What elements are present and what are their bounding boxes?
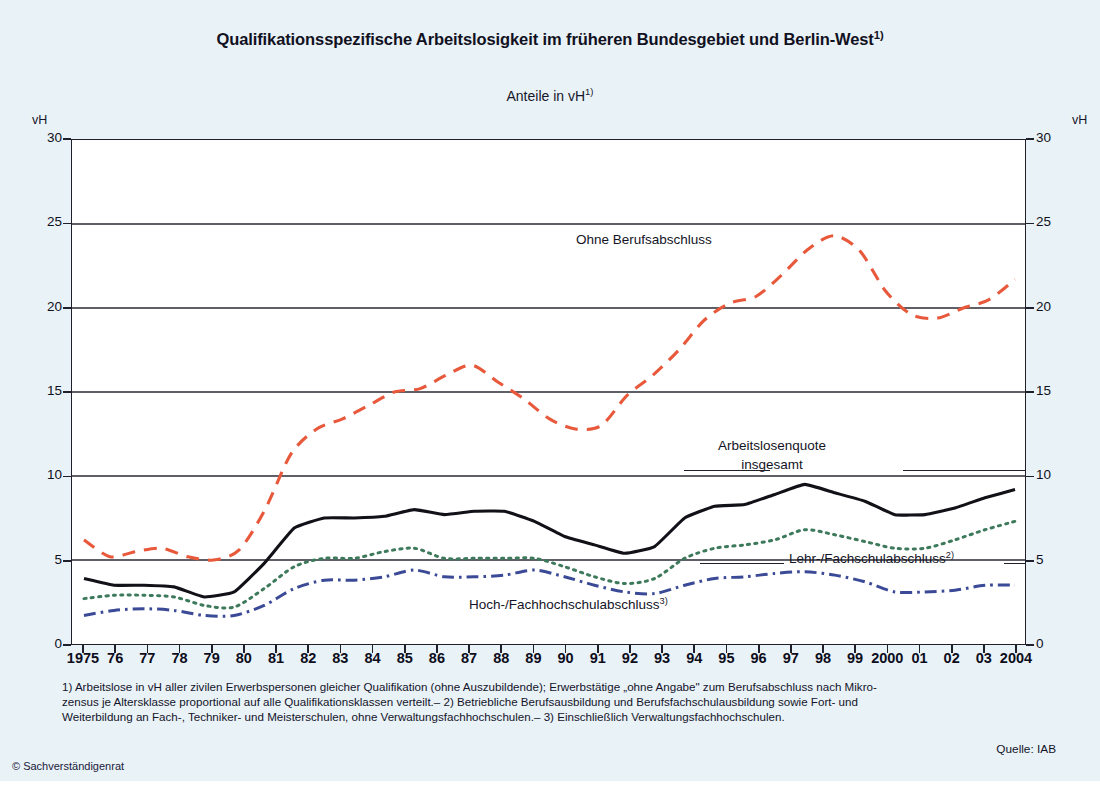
series-label-hoch-fachhochschulabschluss: Hoch-/Fachhochschulabschluss3) <box>469 597 668 612</box>
series-line <box>84 484 1015 597</box>
y-tick-label-right-15: 15 <box>1036 383 1076 398</box>
x-tick-mark-1975 <box>82 645 84 653</box>
y-tick-label-right-5: 5 <box>1036 552 1076 567</box>
series-label-lehr-text: Lehr-/Fachschulabschluss <box>789 551 946 566</box>
y-tick-mark-left-5 <box>63 560 71 562</box>
leader-line-arbeitslosenquote-right <box>903 470 1026 471</box>
footnote-line-3: Weiterbildung an Fach-, Techniker- und M… <box>62 709 1062 724</box>
bottom-bar <box>0 781 1100 790</box>
plot-area <box>71 139 1026 645</box>
y-tick-mark-right-0 <box>1026 644 1034 646</box>
x-tick-mark-1998 <box>822 645 824 653</box>
y-tick-label-right-0: 0 <box>1036 636 1076 651</box>
x-tick-mark-1980 <box>243 645 245 653</box>
x-tick-mark-1988 <box>500 645 502 653</box>
x-tick-mark-2003 <box>983 645 985 653</box>
y-tick-mark-right-25 <box>1026 223 1034 225</box>
series-line <box>84 236 1015 560</box>
x-tick-mark-1977 <box>147 645 149 653</box>
series-label-lehr-footnote-marker: 2) <box>946 550 954 560</box>
y-tick-mark-left-10 <box>63 476 71 478</box>
leader-line-arbeitslosenquote-left <box>684 470 770 471</box>
series-label-arbeitslosenquote-line1: Arbeitslosenquote <box>682 438 862 453</box>
y-tick-label-left-25: 25 <box>28 214 62 229</box>
x-tick-mark-1976 <box>114 645 116 653</box>
y-tick-mark-right-5 <box>1026 560 1034 562</box>
chart-canvas <box>72 140 1025 644</box>
x-tick-mark-1995 <box>726 645 728 653</box>
page-title: Qualifikationsspezifische Arbeitslosigke… <box>0 30 1100 49</box>
y-tick-label-right-10: 10 <box>1036 467 1076 482</box>
y-tick-mark-right-20 <box>1026 307 1034 309</box>
footnote-line-2: zensus je Altersklasse proportional auf … <box>62 694 1062 709</box>
y-axis-unit-left: vH <box>32 113 47 127</box>
x-tick-mark-1999 <box>854 645 856 653</box>
page-title-text: Qualifikationsspezifische Arbeitslosigke… <box>216 30 873 48</box>
chart-page: Qualifikationsspezifische Arbeitslosigke… <box>0 0 1100 790</box>
y-tick-label-left-0: 0 <box>28 636 62 651</box>
x-tick-mark-1983 <box>340 645 342 653</box>
y-tick-label-right-30: 30 <box>1036 130 1076 145</box>
y-tick-mark-left-15 <box>63 391 71 393</box>
x-tick-mark-1984 <box>372 645 374 653</box>
x-tick-mark-2002 <box>951 645 953 653</box>
copyright-label: © Sachverständigenrat <box>12 760 124 772</box>
x-tick-mark-1987 <box>468 645 470 653</box>
x-tick-mark-2004 <box>1015 645 1017 653</box>
x-tick-mark-1992 <box>629 645 631 653</box>
x-tick-mark-1990 <box>565 645 567 653</box>
y-tick-label-left-10: 10 <box>28 467 62 482</box>
y-tick-label-left-5: 5 <box>28 552 62 567</box>
chart-subtitle: Anteile in vH1) <box>0 88 1100 104</box>
x-tick-mark-1985 <box>404 645 406 653</box>
y-axis-unit-right: vH <box>1072 113 1087 127</box>
y-tick-label-right-20: 20 <box>1036 299 1076 314</box>
y-tick-label-right-25: 25 <box>1036 214 1076 229</box>
footnote-line-1: 1) Arbeitslose in vH aller zivilen Erwer… <box>62 679 1062 694</box>
x-tick-mark-1978 <box>179 645 181 653</box>
y-tick-label-left-15: 15 <box>28 383 62 398</box>
chart-subtitle-text: Anteile in vH <box>506 88 585 104</box>
x-tick-mark-1982 <box>307 645 309 653</box>
x-tick-mark-1996 <box>758 645 760 653</box>
y-tick-mark-right-15 <box>1026 391 1034 393</box>
series-label-lehr-fachschulabschluss: Lehr-/Fachschulabschluss2) <box>789 551 954 566</box>
source-label: Quelle: IAB <box>996 742 1056 756</box>
y-tick-mark-left-0 <box>63 644 71 646</box>
x-tick-mark-1991 <box>597 645 599 653</box>
chart-subtitle-footnote-marker: 1) <box>585 86 593 97</box>
x-tick-mark-1993 <box>661 645 663 653</box>
page-title-footnote-marker: 1) <box>874 29 884 41</box>
x-tick-mark-1986 <box>436 645 438 653</box>
x-tick-mark-2001 <box>919 645 921 653</box>
y-tick-label-left-30: 30 <box>28 130 62 145</box>
y-tick-label-left-20: 20 <box>28 299 62 314</box>
leader-line-lehr-right <box>1004 563 1026 564</box>
series-label-hoch-footnote-marker: 3) <box>660 596 668 606</box>
y-tick-mark-left-25 <box>63 223 71 225</box>
x-tick-mark-2000 <box>887 645 889 653</box>
leader-line-lehr-left <box>700 563 784 564</box>
x-tick-mark-1989 <box>533 645 535 653</box>
y-tick-mark-right-10 <box>1026 476 1034 478</box>
footnote-block: 1) Arbeitslose in vH aller zivilen Erwer… <box>62 679 1062 725</box>
y-tick-mark-left-20 <box>63 307 71 309</box>
x-tick-mark-1979 <box>211 645 213 653</box>
series-label-hoch-text: Hoch-/Fachhochschulabschluss <box>469 597 660 612</box>
x-tick-mark-1994 <box>693 645 695 653</box>
x-tick-mark-1981 <box>275 645 277 653</box>
y-tick-mark-right-30 <box>1026 138 1034 140</box>
series-label-ohne-berufsabschluss: Ohne Berufsabschluss <box>576 232 712 247</box>
x-tick-mark-1997 <box>790 645 792 653</box>
y-tick-mark-left-30 <box>63 138 71 140</box>
